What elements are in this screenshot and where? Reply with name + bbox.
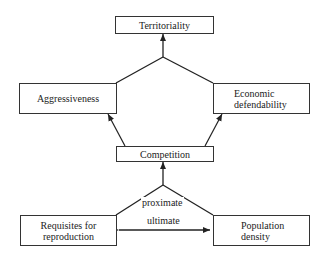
node-requisites-label-line2: reproduction xyxy=(41,231,97,242)
edge-label-proximate: proximate xyxy=(141,197,184,208)
node-aggressiveness: Aggressiveness xyxy=(19,83,117,114)
edge-competition-economic xyxy=(205,114,222,146)
node-economic-label-line2: defendability xyxy=(234,99,287,110)
node-economic-label-line1: Economic xyxy=(234,88,287,99)
node-competition-label: Competition xyxy=(140,149,190,160)
edge-economic-junction xyxy=(163,57,213,83)
edge-label-ultimate: ultimate xyxy=(146,215,181,226)
node-requisites-for-reproduction: Requisites for reproduction xyxy=(20,215,117,246)
node-aggressiveness-label: Aggressiveness xyxy=(37,93,99,104)
node-population-label-line2: density xyxy=(241,231,284,242)
node-territoriality-label: Territoriality xyxy=(139,20,190,31)
edge-competition-aggressiveness xyxy=(108,114,125,146)
node-competition: Competition xyxy=(116,146,214,162)
node-requisites-label-line1: Requisites for xyxy=(41,220,97,231)
node-population-label-line1: Population xyxy=(241,220,284,231)
node-economic-defendability: Economic defendability xyxy=(213,83,310,114)
node-territoriality: Territoriality xyxy=(115,16,214,34)
node-population-density: Population density xyxy=(213,215,310,246)
edge-aggressiveness-junction xyxy=(116,57,163,83)
